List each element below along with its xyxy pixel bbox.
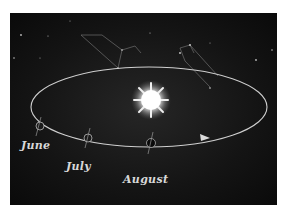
constellation-left <box>81 35 141 69</box>
month-label-august: August <box>123 173 168 186</box>
constellation-right <box>179 44 218 89</box>
earth-july <box>84 128 92 148</box>
direction-arrow <box>200 134 210 141</box>
stars <box>13 21 273 61</box>
earth-august <box>147 132 156 154</box>
space-illustration: June July August <box>10 13 277 205</box>
month-label-june: June <box>21 139 50 152</box>
month-label-july: July <box>66 160 91 173</box>
sun <box>131 80 171 120</box>
